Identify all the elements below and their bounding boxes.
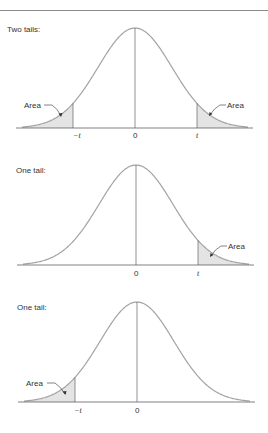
tick-pos-t: t bbox=[196, 131, 199, 140]
panel-title: One tail: bbox=[17, 303, 47, 312]
arrow-icon bbox=[44, 105, 63, 117]
panel-title: Two tails: bbox=[7, 25, 40, 34]
panel-one-tail-right: One tail: Area 0 t bbox=[16, 165, 254, 278]
panel-one-tail-left: One tail: Area −t 0 bbox=[17, 302, 255, 415]
tick-zero: 0 bbox=[133, 131, 138, 140]
tick-neg-t: −t bbox=[74, 406, 82, 415]
arrow-icon bbox=[209, 105, 226, 116]
area-label-left: Area bbox=[26, 379, 43, 388]
area-label-right: Area bbox=[227, 101, 244, 110]
panel-title: One tail: bbox=[16, 166, 46, 175]
area-label-right: Area bbox=[228, 242, 245, 251]
t-distribution-figure: Two tails: Area Area −t 0 t One tail: Ar… bbox=[0, 0, 268, 433]
tick-neg-t: −t bbox=[73, 131, 81, 140]
tick-zero: 0 bbox=[135, 406, 140, 415]
tick-pos-t: t bbox=[197, 269, 200, 278]
area-label-left: Area bbox=[24, 101, 41, 110]
panel-two-tails: Two tails: Area Area −t 0 t bbox=[7, 25, 253, 140]
arrow-icon bbox=[210, 246, 227, 257]
tick-zero: 0 bbox=[134, 269, 139, 278]
